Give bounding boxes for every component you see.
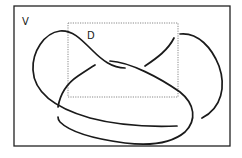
knot-diagram bbox=[0, 0, 242, 158]
label-D: D bbox=[87, 31, 95, 41]
knot-strand-right-arc bbox=[180, 34, 222, 118]
knot-strand-bottom-loop bbox=[58, 61, 193, 144]
knot-strand-upper-right bbox=[145, 38, 174, 66]
knot-strand-left-loop bbox=[33, 31, 177, 126]
outer-frame-V bbox=[14, 6, 230, 146]
knot-strand-inner-left bbox=[58, 65, 95, 107]
dotted-region-D bbox=[68, 23, 178, 97]
label-V: V bbox=[22, 17, 29, 27]
